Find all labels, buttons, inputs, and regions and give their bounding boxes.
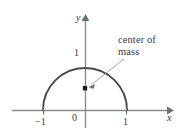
x-axis-label: x — [167, 113, 171, 123]
figure-canvas — [0, 0, 186, 140]
annotation-leader-line — [91, 59, 124, 85]
y-axis-arrowhead — [82, 14, 90, 21]
annotation-label-line-2: mass — [118, 47, 139, 58]
y-axis-label: y — [76, 13, 80, 23]
center-of-mass-point — [83, 86, 87, 90]
x-tick-label-negative-one: −1 — [35, 117, 46, 127]
y-tick-label-one: 1 — [74, 48, 79, 58]
x-tick-label-positive-one: 1 — [123, 117, 128, 127]
origin-label: 0 — [72, 113, 77, 123]
math-figure-semicircle-center-of-mass: y x 1 0 −1 1 center of mass — [0, 0, 186, 140]
annotation-leader-arrowhead — [89, 84, 96, 89]
annotation-label-line-1: center of — [118, 35, 156, 46]
